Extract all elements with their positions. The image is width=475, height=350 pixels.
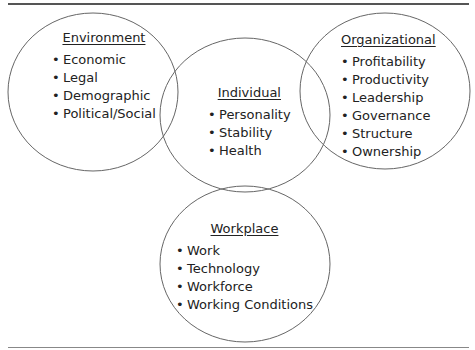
workplace-group: Workplace Work Technology Workforce Work… (176, 220, 313, 314)
bottom-rule (8, 347, 469, 348)
list-item: Working Conditions (176, 296, 313, 314)
environment-group: Environment Economic Legal Demographic P… (52, 29, 156, 123)
individual-group: Individual Personality Stability Health (208, 84, 291, 160)
list-item: Structure (341, 125, 436, 143)
list-item: Personality (208, 106, 291, 124)
list-item: Economic (52, 51, 156, 69)
list-item: Leadership (341, 89, 436, 107)
individual-list: Personality Stability Health (208, 106, 291, 160)
environment-title: Environment (52, 29, 156, 47)
workplace-title: Workplace (176, 220, 313, 238)
environment-list: Economic Legal Demographic Political/Soc… (52, 51, 156, 123)
list-item: Technology (176, 260, 313, 278)
workplace-list: Work Technology Workforce Working Condit… (176, 242, 313, 314)
list-item: Profitability (341, 53, 436, 71)
list-item: Ownership (341, 143, 436, 161)
organizational-list: Profitability Productivity Leadership Go… (341, 53, 436, 161)
list-item: Productivity (341, 71, 436, 89)
list-item: Political/Social (52, 105, 156, 123)
organizational-group: Organizational Profitability Productivit… (341, 31, 436, 161)
individual-title: Individual (208, 84, 291, 102)
list-item: Workforce (176, 278, 313, 296)
list-item: Governance (341, 107, 436, 125)
organizational-title: Organizational (341, 31, 436, 49)
list-item: Legal (52, 69, 156, 87)
list-item: Health (208, 142, 291, 160)
list-item: Demographic (52, 87, 156, 105)
list-item: Work (176, 242, 313, 260)
list-item: Stability (208, 124, 291, 142)
